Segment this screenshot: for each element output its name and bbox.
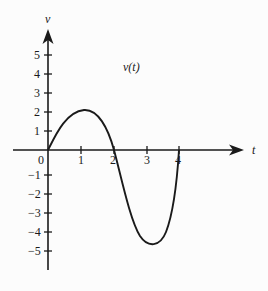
curve-v-of-t: [48, 110, 179, 244]
y-tick-label-5: 5: [34, 48, 40, 62]
y-axis-label: v: [45, 12, 51, 26]
y-tick-label-neg3: −3: [28, 206, 41, 220]
x-tick-label-2: 2: [110, 153, 116, 167]
y-tick-label-4: 4: [34, 67, 40, 81]
y-tick-label-neg4: −4: [28, 225, 41, 239]
y-tick-label-neg2: −2: [28, 187, 41, 201]
curve-label: v(t): [123, 60, 140, 74]
y-tick-label-neg1: −1: [28, 168, 41, 182]
x-axis-label: t: [252, 143, 256, 157]
x-tick-label-3: 3: [144, 153, 150, 167]
x-tick-label-4: 4: [175, 153, 181, 167]
chart: v t v(t) 0 1 2 3 4 5 4 3 2 1 −1 −2 −3 −4…: [0, 0, 268, 291]
y-tick-label-3: 3: [34, 86, 40, 100]
y-tick-label-1: 1: [34, 124, 40, 138]
x-tick-label-0: 0: [38, 153, 44, 167]
x-tick-label-1: 1: [78, 153, 84, 167]
y-tick-label-neg5: −5: [28, 244, 41, 258]
y-tick-label-2: 2: [34, 105, 40, 119]
